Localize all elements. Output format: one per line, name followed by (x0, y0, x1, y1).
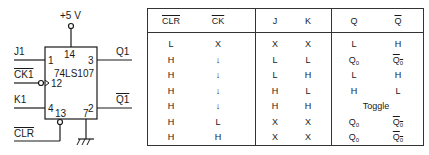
table-cell: H (293, 70, 323, 81)
header-2: J (260, 16, 290, 27)
table-cell: H (293, 101, 323, 112)
table-cell: ↓ (203, 86, 233, 97)
table-cell: Q0 (339, 132, 369, 146)
table-cell: H (203, 132, 233, 143)
table-cell: H (383, 39, 413, 50)
pin-3: 3 (88, 55, 94, 66)
pin-2: 2 (88, 103, 94, 114)
table-cell: Q0 (339, 117, 369, 131)
table-cell: Q0 (383, 55, 413, 69)
table-cell: H (156, 70, 186, 81)
table-cell: L (339, 39, 369, 50)
table-cell: X (260, 117, 290, 128)
clr-label: CLR (14, 128, 34, 139)
header-1: CK (203, 16, 233, 27)
table-cell: L (156, 39, 186, 50)
k1-label: K1 (14, 94, 27, 105)
truth-table: CLRCKJKQQLXXXLHH↓LLQ0Q0H↓LHLHH↓HLHLH↓HHT… (147, 8, 424, 146)
table-cell: L (260, 55, 290, 66)
pin-7: 7 (83, 108, 89, 119)
header-0: CLR (156, 16, 186, 27)
table-cell: X (293, 117, 323, 128)
pin-1: 1 (48, 55, 54, 66)
table-cell: L (293, 86, 323, 97)
q1bar-label: Q1 (116, 94, 130, 105)
table-cell: H (156, 101, 186, 112)
table-cell: H (260, 86, 290, 97)
table-cell: L (203, 117, 233, 128)
table-cell: Q0 (339, 55, 369, 69)
supply-label: +5 V (60, 10, 81, 21)
table-cell: X (260, 39, 290, 50)
table-cell: X (293, 132, 323, 143)
table-cell: H (339, 86, 369, 97)
pin-14: 14 (64, 49, 76, 60)
table-cell: Q0 (383, 132, 413, 146)
pin-12: 12 (51, 78, 63, 89)
pin-13: 13 (55, 108, 67, 119)
ck1-label: CK1 (14, 69, 34, 80)
table-cell: X (293, 39, 323, 50)
table-cell: H (156, 55, 186, 66)
table-cell: Toggle (346, 101, 406, 112)
pin-4: 4 (48, 103, 54, 114)
table-cell: H (156, 132, 186, 143)
table-cell: ↓ (203, 55, 233, 66)
flip-flop-schematic: +5 V 14 74LS107 J1 1 CK1 12 K1 4 Q1 3 Q1… (0, 0, 145, 155)
table-cell: ↓ (203, 70, 233, 81)
table-cell: ↓ (203, 101, 233, 112)
table-cell: H (156, 117, 186, 128)
j1-label: J1 (14, 46, 25, 57)
table-cell: L (293, 55, 323, 66)
table-cell: L (339, 70, 369, 81)
q1-label: Q1 (116, 46, 130, 57)
table-cell: X (260, 132, 290, 143)
header-5: Q (383, 16, 413, 27)
table-cell: H (260, 101, 290, 112)
table-cell: H (156, 86, 186, 97)
table-cell: L (260, 70, 290, 81)
table-cell: L (383, 86, 413, 97)
header-3: K (293, 16, 323, 27)
table-cell: H (383, 70, 413, 81)
header-4: Q (339, 16, 369, 27)
table-cell: Q0 (383, 117, 413, 131)
table-cell: X (203, 39, 233, 50)
